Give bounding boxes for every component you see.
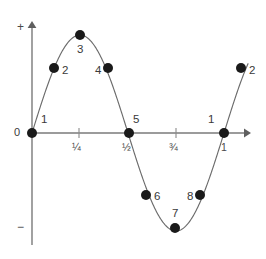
y-axis-positive-sign: + (17, 21, 24, 33)
data-point-label-p9: 1 (208, 114, 214, 126)
data-point-p10 (236, 63, 246, 73)
data-point-p5 (124, 128, 134, 138)
data-point-label-p10: 2 (249, 65, 255, 77)
y-axis-arrow-icon (28, 21, 37, 28)
data-point-label-p5: 5 (133, 114, 139, 126)
x-tick-label-three-quarter: ¾ (169, 142, 178, 153)
sine-wave-figure: + − 0 ¼ ½ ¾ 1 1234567812 (0, 0, 266, 259)
data-point-label-p4: 4 (95, 65, 101, 77)
x-tick-label-quarter: ¼ (72, 142, 81, 153)
plot-canvas (0, 0, 266, 259)
data-point-p2 (49, 63, 59, 73)
data-point-p1 (27, 128, 37, 138)
data-point-group (27, 30, 246, 233)
data-point-p4 (103, 63, 113, 73)
y-axis-negative-sign: − (17, 221, 24, 233)
data-point-label-p6: 6 (154, 191, 160, 203)
x-axis-arrow-icon (244, 129, 251, 138)
data-point-label-p2: 2 (62, 65, 68, 77)
x-tick-label-one: 1 (221, 142, 227, 153)
origin-label: 0 (14, 127, 20, 138)
data-point-label-p3: 3 (77, 44, 83, 56)
data-point-p9 (219, 128, 229, 138)
data-point-label-p1: 1 (41, 114, 47, 126)
data-point-label-p7: 7 (172, 208, 178, 220)
data-point-p3 (75, 30, 85, 40)
data-point-p6 (141, 190, 151, 200)
data-point-label-p8: 8 (187, 191, 193, 203)
x-tick-label-half: ½ (122, 142, 131, 153)
data-point-p8 (195, 190, 205, 200)
data-point-p7 (170, 223, 180, 233)
